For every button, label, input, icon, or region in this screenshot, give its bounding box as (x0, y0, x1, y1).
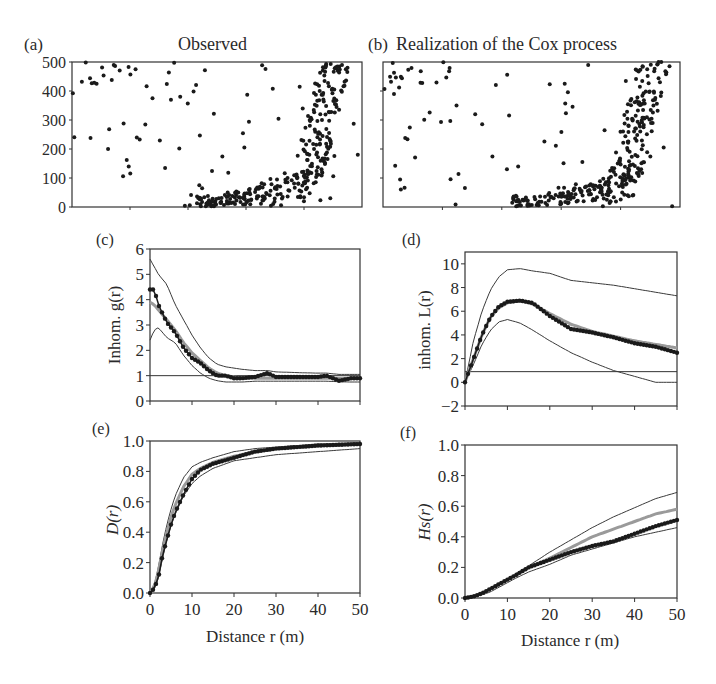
observed-markers (463, 518, 679, 600)
ytick-label: 500 (42, 54, 66, 71)
ytick-label: 6 (451, 302, 460, 321)
ytick-label: 3 (136, 316, 145, 335)
ytick-label: 0.8 (123, 462, 144, 481)
ytick-label: 1.0 (123, 432, 144, 451)
envelope-lower-line (150, 449, 360, 593)
ytick-label: 4 (136, 291, 145, 310)
ytick-label: 6 (136, 240, 145, 259)
ytick-label: 1 (136, 367, 145, 386)
ytick-label: 0.8 (438, 467, 459, 486)
xtick-label: 40 (626, 605, 643, 624)
ytick-label: 300 (42, 112, 66, 129)
panel-b-tag: (b) (368, 35, 388, 54)
ytick-label: 0.0 (438, 589, 459, 608)
ytick-label: 100 (42, 170, 66, 187)
panel-f-tag: (f) (400, 424, 416, 442)
ytick-label: 0.2 (123, 554, 144, 573)
ytick-label: 2 (136, 341, 145, 360)
ytick-label: 8 (451, 279, 460, 298)
panel-e-frame (150, 441, 360, 593)
ytick-label: 0.6 (438, 497, 459, 516)
panel-c-ylabel: Inhom. g(r) (105, 286, 124, 364)
ytick-label: 4 (451, 326, 460, 345)
ytick-label: 0.4 (438, 528, 460, 547)
xtick-label: 30 (268, 600, 285, 619)
ytick-label: 0 (58, 199, 66, 216)
ytick-label: 2 (451, 350, 460, 369)
ytick-label: −2 (441, 397, 459, 416)
xtick-label: 20 (226, 600, 243, 619)
ytick-label: 0.6 (123, 493, 144, 512)
panel-d-ylabel: inhom. L(r) (415, 290, 434, 369)
panel-a-tag: (a) (24, 35, 43, 54)
ytick-label: 0.4 (123, 523, 145, 542)
panel-d-tag: (d) (402, 231, 421, 249)
ytick-label: 200 (42, 141, 66, 158)
panel-f-frame (465, 445, 677, 598)
figure: (a) Observed (b) Realization of the Cox … (0, 0, 716, 684)
panel-b-points (382, 60, 674, 208)
panel-a-title: Observed (178, 34, 247, 54)
observed-markers (148, 442, 362, 595)
panel-b-title: Realization of the Cox process (396, 34, 617, 54)
ytick-label: 5 (136, 265, 145, 284)
xtick-label: 30 (584, 605, 601, 624)
panel-c-tag: (c) (96, 231, 114, 249)
panel-f-ylabel: Hs(r) (415, 503, 434, 541)
xtick-label: 0 (146, 600, 155, 619)
model-line (150, 444, 360, 593)
observed-line (150, 444, 360, 593)
ytick-label: 0 (451, 373, 460, 392)
observed-line (150, 290, 360, 381)
envelope-upper-line (150, 259, 360, 374)
model-line (465, 301, 677, 383)
xtick-label: 50 (352, 600, 369, 619)
panel-a-points (71, 60, 360, 208)
xtick-label: 10 (184, 600, 201, 619)
ytick-label: 0.2 (438, 558, 459, 577)
envelope-upper-line (465, 492, 677, 598)
ytick-label: 10 (442, 255, 459, 274)
ytick-label: 0 (136, 392, 145, 411)
panel-e-ylabel: D(r) (103, 505, 122, 537)
ytick-label: 0.0 (123, 584, 144, 603)
xtick-label: 10 (499, 605, 516, 624)
panel-e-xlabel: Distance r (m) (206, 627, 304, 646)
panel-e-tag: (e) (92, 420, 110, 438)
xtick-label: 40 (310, 600, 327, 619)
envelope-lower-line (150, 328, 360, 382)
panel-f-xlabel: Distance r (m) (521, 631, 619, 650)
ytick-label: 1.0 (438, 436, 459, 455)
ytick-label: 400 (42, 83, 66, 100)
xtick-label: 20 (541, 605, 558, 624)
xtick-label: 50 (669, 605, 686, 624)
envelope-upper-line (150, 443, 360, 594)
xtick-label: 0 (461, 605, 470, 624)
